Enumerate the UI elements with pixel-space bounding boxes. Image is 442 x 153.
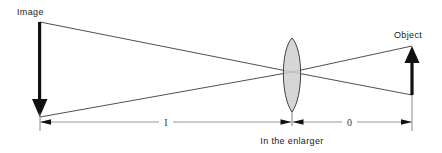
dimension-image-distance: I — [40, 115, 292, 129]
image-distance-arrow-right — [281, 119, 292, 125]
image-distance-label: I — [164, 117, 168, 128]
object-label: Object — [394, 30, 422, 40]
enlarger-lens — [283, 38, 300, 126]
image-arrow-shaft — [38, 22, 41, 102]
image-label: Image — [17, 7, 44, 17]
object-distance-arrow-right — [401, 119, 412, 125]
ray-bottom-to-top — [40, 46, 412, 117]
object-arrow-head — [405, 46, 420, 63]
optics-diagram-root: I 0 Image Object In the enlarger — [0, 0, 442, 153]
object-distance-arrow-left — [293, 119, 304, 125]
dimension-object-distance: 0 — [293, 115, 413, 129]
ray-group — [40, 22, 412, 117]
image-arrow — [32, 22, 48, 117]
object-distance-label: 0 — [347, 117, 352, 128]
object-arrow — [405, 46, 420, 95]
optics-diagram-canvas: I 0 Image Object In the enlarger — [0, 0, 442, 153]
image-distance-arrow-left — [40, 119, 51, 125]
diagram-caption: In the enlarger — [260, 136, 323, 146]
object-arrow-shaft — [410, 60, 413, 95]
lens-icon — [283, 38, 300, 112]
